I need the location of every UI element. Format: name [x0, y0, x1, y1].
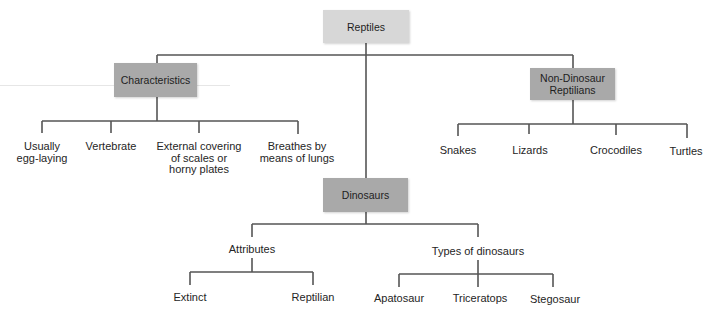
leaf-text: Apatosaur	[364, 293, 434, 305]
leaf-text-line: means of lungs	[252, 153, 342, 165]
leaf-lizards: Lizards	[495, 145, 565, 157]
leaf-text: Extinct	[160, 292, 220, 304]
node-non-dinosaur-label-line2: Reptilians	[549, 84, 595, 96]
leaf-text-line: Vertebrate	[76, 141, 146, 153]
leaf-triceratops: Triceratops	[445, 293, 515, 305]
connector-lines	[0, 0, 710, 315]
leaf-crocodiles: Crocodiles	[581, 145, 651, 157]
node-non-dinosaur-reptilians: Non-Dinosaur Reptilians	[530, 68, 615, 100]
leaf-text: Stegosaur	[520, 294, 590, 306]
node-characteristics: Characteristics	[114, 63, 197, 97]
leaf-vertebrate: Vertebrate	[76, 141, 146, 153]
node-reptiles: Reptiles	[323, 10, 409, 43]
leaf-breathes-by-lungs: Breathes by means of lungs	[252, 141, 342, 164]
node-non-dinosaur-label-line1: Non-Dinosaur	[540, 72, 605, 84]
node-reptiles-label: Reptiles	[347, 21, 385, 33]
leaf-text-line: egg-laying	[2, 153, 82, 165]
reptiles-concept-map: Reptiles Characteristics Non-Dinosaur Re…	[0, 0, 710, 315]
leaf-text: Turtles	[656, 146, 710, 158]
leaf-apatosaur: Apatosaur	[364, 293, 434, 305]
leaf-reptilian: Reptilian	[278, 292, 348, 304]
node-characteristics-label: Characteristics	[121, 74, 190, 86]
leaf-text-line: horny plates	[149, 164, 249, 176]
leaf-text-line: Usually	[2, 141, 82, 153]
branch-attributes: Attributes	[202, 244, 302, 256]
node-dinosaurs-label: Dinosaurs	[342, 189, 389, 201]
leaf-text: Snakes	[423, 145, 493, 157]
leaf-text-line: External covering	[149, 141, 249, 153]
leaf-extinct: Extinct	[160, 292, 220, 304]
leaf-text: Lizards	[495, 145, 565, 157]
branch-types-of-dinosaurs: Types of dinosaurs	[418, 246, 538, 258]
leaf-usually-egg-laying: Usually egg-laying	[2, 141, 82, 164]
leaf-stegosaur: Stegosaur	[520, 294, 590, 306]
leaf-turtles: Turtles	[656, 146, 710, 158]
leaf-text: Crocodiles	[581, 145, 651, 157]
branch-attributes-label: Attributes	[202, 244, 302, 256]
node-dinosaurs: Dinosaurs	[323, 178, 408, 212]
leaf-text: Reptilian	[278, 292, 348, 304]
leaf-text-line: Breathes by	[252, 141, 342, 153]
leaf-text: Triceratops	[445, 293, 515, 305]
leaf-external-covering: External covering of scales or horny pla…	[149, 141, 249, 176]
branch-types-label: Types of dinosaurs	[418, 246, 538, 258]
leaf-snakes: Snakes	[423, 145, 493, 157]
